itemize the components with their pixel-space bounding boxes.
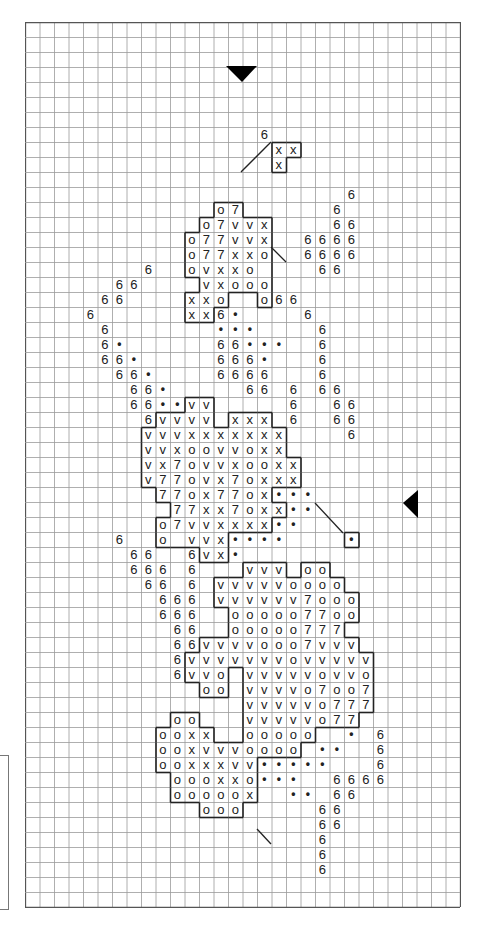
stitch-symbol: o [185,487,200,502]
stitch-symbol: o [330,682,345,697]
stitch-symbol: 7 [330,622,345,637]
stitch-symbol: o [228,787,243,802]
stitch-symbol: o [330,577,345,592]
stitch-symbol: 6 [344,427,359,442]
stitch-symbol: v [199,742,214,757]
stitch-symbol: x [272,472,287,487]
stitch-symbol: 6 [330,787,345,802]
stitch-symbol: • [301,757,316,772]
stitch-symbol: • [286,487,301,502]
stitch-symbol: o [243,607,258,622]
stitch-symbol: x [214,427,229,442]
stitch-symbol: 6 [344,232,359,247]
stitch-symbol: o [286,577,301,592]
stitch-symbol: v [257,592,272,607]
stitch-symbol: • [257,352,272,367]
stitch-symbol: v [272,697,287,712]
stitch-symbol: v [330,637,345,652]
stitch-symbol: • [272,517,287,532]
stitch-symbol: 6 [344,787,359,802]
stitch-symbol: v [141,457,156,472]
stitch-symbol: o [272,607,287,622]
stitch-symbol: o [344,592,359,607]
stitch-symbol: 7 [214,247,229,262]
stitch-symbol: v [286,682,301,697]
stitch-symbol: v [199,532,214,547]
stitch-symbol: v [141,427,156,442]
stitch-symbol: 6 [98,337,113,352]
stitch-symbol: v [243,652,258,667]
stitch-symbol: 6 [344,397,359,412]
stitch-symbol: 6 [156,577,171,592]
stitch-symbol: 6 [185,607,200,622]
stitch-symbol: o [170,742,185,757]
stitch-symbol: v [199,262,214,277]
stitch-symbol: x [228,427,243,442]
stitch-symbol: v [170,412,185,427]
stitch-symbol: v [243,682,258,697]
stitch-symbol: x [228,412,243,427]
stitch-symbol: v [214,457,229,472]
stitch-symbol: 6 [98,322,113,337]
stitch-symbol: o [199,787,214,802]
stitch-symbol: 6 [127,382,142,397]
stitch-symbol: o [315,592,330,607]
stitch-symbol: o [214,292,229,307]
stitch-symbol: x [199,427,214,442]
stitch-symbol: 6 [315,847,330,862]
stitch-symbol: v [243,637,258,652]
stitch-symbol: 7 [185,502,200,517]
stitch-symbol: o [286,652,301,667]
stitch-symbol: v [257,682,272,697]
stitch-symbol: 7 [170,472,185,487]
stitch-symbol: v [243,757,258,772]
stitch-symbol: v [257,577,272,592]
right-center-marker-icon [403,490,418,518]
stitch-symbol: 7 [170,487,185,502]
stitch-symbol: • [344,532,359,547]
stitch-symbol: v [199,412,214,427]
stitch-symbol: • [127,352,142,367]
stitch-symbol: o [257,637,272,652]
stitch-symbol: v [257,652,272,667]
stitch-symbol: 6 [127,397,142,412]
stitch-symbol: • [228,322,243,337]
stitch-symbol: v [185,667,200,682]
stitch-symbol: o [185,457,200,472]
stitch-symbol: v [243,667,258,682]
stitch-symbol: v [272,577,287,592]
stitch-symbol: x [243,517,258,532]
stitch-symbol: 6 [286,397,301,412]
stitch-symbol: 6 [127,277,142,292]
stitch-symbol: x [199,487,214,502]
stitch-symbol: o [257,727,272,742]
stitch-symbol: v [156,427,171,442]
stitch-symbol: x [272,442,287,457]
stitch-symbol: v [228,757,243,772]
stitch-symbol: • [301,787,316,802]
stitch-symbol: o [301,727,316,742]
stitch-symbol: x [243,427,258,442]
stitch-symbol: 6 [315,337,330,352]
stitch-symbol: v [228,592,243,607]
stitch-symbol: o [228,802,243,817]
stitch-symbol: x [272,142,287,157]
stitch-symbol: x [228,247,243,262]
backstitch-line [271,247,286,262]
stitch-symbol: v [156,442,171,457]
stitch-symbol: o [170,787,185,802]
stitch-symbol: 6 [301,232,316,247]
stitch-symbol: 6 [315,262,330,277]
stitch-symbol: 7 [199,232,214,247]
stitch-symbol: v [228,232,243,247]
stitch-symbol: v [185,517,200,532]
stitch-symbol: x [257,412,272,427]
stitch-symbol: o [228,607,243,622]
stitch-symbol: v [243,217,258,232]
stitch-symbol: • [286,772,301,787]
stitch-symbol: v [257,562,272,577]
stitch-symbol: 6 [344,412,359,427]
stitch-symbol: x [214,277,229,292]
stitch-symbol: x [272,427,287,442]
stitch-symbol: 6 [170,592,185,607]
